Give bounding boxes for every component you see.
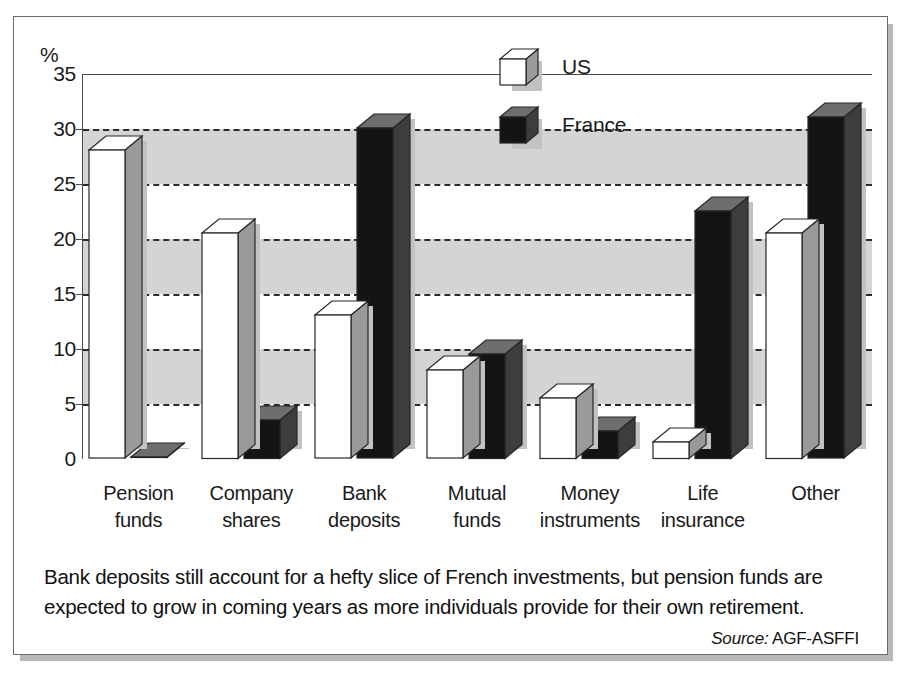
x-axis-label: Companyshares — [195, 480, 308, 534]
source-word: Source: — [711, 629, 768, 648]
bar-france — [695, 196, 731, 460]
bar-3d-shape — [89, 135, 144, 459]
bar-us — [653, 427, 689, 460]
x-axis-label-line2: insurance — [646, 507, 759, 534]
bar-us — [766, 218, 802, 460]
bar-us — [315, 300, 351, 459]
x-axis-label: Moneyinstruments — [533, 480, 646, 534]
bar-group — [195, 74, 308, 459]
bar-group — [533, 74, 646, 459]
source-value: AGF-ASFFI — [772, 629, 859, 648]
x-axis-label: Mutualfunds — [421, 480, 534, 534]
bar-group — [308, 74, 421, 459]
plot-area: 05101520253035 — [82, 74, 872, 459]
figure-panel: % 05101520253035 USFrance PensionfundsCo… — [13, 16, 888, 655]
bar-3d-shape — [695, 196, 750, 460]
bar-3d-shape — [202, 218, 257, 460]
figure-source: Source: AGF-ASFFI — [711, 629, 859, 649]
x-axis-label-line2: deposits — [308, 507, 421, 534]
x-axis-label-line1: Money — [533, 480, 646, 507]
x-axis-label-line2: shares — [195, 507, 308, 534]
bar-group — [759, 74, 872, 459]
bar-3d-shape — [315, 300, 370, 459]
x-axis-label: Bankdeposits — [308, 480, 421, 534]
x-axis-label-line1: Company — [195, 480, 308, 507]
bar-group — [82, 74, 195, 459]
y-tick-label: 25 — [30, 173, 76, 194]
bar-group — [421, 74, 534, 459]
y-axis-ticks: 05101520253035 — [30, 74, 76, 459]
x-axis-label-line1: Bank — [308, 480, 421, 507]
y-tick-label: 15 — [30, 283, 76, 304]
x-axis-label-line2: funds — [421, 507, 534, 534]
x-axis-label-line1: Other — [759, 480, 872, 507]
x-axis-label: Other — [759, 480, 872, 507]
bar-3d-shape — [653, 427, 708, 460]
bar-series-container — [82, 74, 872, 459]
y-tick-label: 20 — [30, 228, 76, 249]
x-axis-label-line2: funds — [82, 507, 195, 534]
chart-area: % 05101520253035 USFrance PensionfundsCo… — [14, 17, 889, 537]
x-axis-label: Lifeinsurance — [646, 480, 759, 534]
bar-3d-shape — [540, 383, 595, 460]
y-tick-label: 35 — [30, 63, 76, 84]
y-tick-label: 5 — [30, 393, 76, 414]
bar-3d-shape — [766, 218, 821, 460]
bar-group — [646, 74, 759, 459]
bar-us — [202, 218, 238, 460]
x-axis-label-line1: Mutual — [421, 480, 534, 507]
x-axis-label-line1: Life — [646, 480, 759, 507]
figure-caption: Bank deposits still account for a hefty … — [44, 562, 864, 622]
x-axis-labels: PensionfundsCompanysharesBankdepositsMut… — [82, 480, 872, 540]
bar-us — [89, 135, 125, 459]
x-axis-label-line2: instruments — [533, 507, 646, 534]
x-axis-label: Pensionfunds — [82, 480, 195, 534]
bar-3d-shape — [427, 355, 482, 459]
y-tick-label: 30 — [30, 118, 76, 139]
x-axis-label-line1: Pension — [82, 480, 195, 507]
bar-us — [540, 383, 576, 460]
bar-us — [427, 355, 463, 459]
y-tick-label: 10 — [30, 338, 76, 359]
y-tick-label: 0 — [30, 448, 76, 469]
